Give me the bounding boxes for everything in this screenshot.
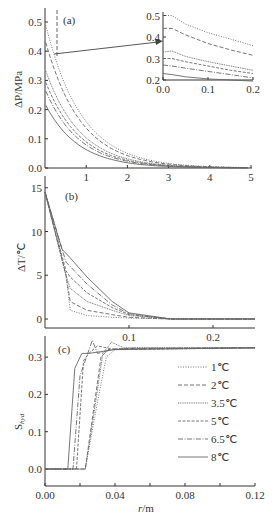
legend-item: 6.5℃ — [178, 433, 237, 445]
panel-label-c: (c) — [58, 343, 71, 356]
y-tick-label: 0.3 — [28, 74, 42, 86]
panel-label-b: (b) — [65, 190, 78, 203]
inset-arrow — [54, 42, 158, 54]
y-tick-label: 10 — [31, 226, 43, 238]
curves-inset — [163, 16, 253, 82]
x-tick-label: 0.2 — [206, 331, 220, 343]
y-tick-label: 5 — [37, 269, 43, 281]
figure: 0.00.10.20.30.40.5 12345 (a) ΔP/MPa 0.20… — [0, 0, 272, 520]
inset-plot: 0.20.30.40.5 0.00.10.2 — [146, 10, 260, 96]
series-line — [45, 192, 255, 319]
y-tick-label: 0.0 — [28, 162, 42, 174]
series-line — [45, 192, 255, 319]
y-tick-label: 0 — [37, 313, 43, 325]
x-tick-label: 4 — [207, 171, 213, 183]
x-tick-label: 0.0 — [156, 83, 170, 95]
legend: 1℃2℃3.5℃5℃6.5℃8℃ — [178, 361, 237, 463]
series-line — [46, 83, 248, 168]
x-tick-label: 1 — [83, 171, 89, 183]
series-line — [45, 192, 255, 319]
x-tick-label: 0.08 — [175, 489, 195, 501]
panel-c-hydrate-saturation: 0.00.10.20.3 0.000.040.080.12 (c) Shyd r… — [12, 336, 265, 514]
x-label-c: r/m — [138, 502, 154, 514]
y-tick-label: 0.3 — [146, 53, 160, 65]
curves-a — [46, 25, 248, 168]
series-line — [46, 91, 248, 168]
y-tick-label: 0.2 — [28, 104, 42, 116]
x-tick-label: 5 — [248, 171, 254, 183]
panel-b-temperature: 051015 0.10.2 (b) ΔT/℃ — [15, 176, 255, 343]
y-tick-label: 0.4 — [146, 31, 160, 43]
legend-label: 2℃ — [211, 379, 229, 391]
y-tick-label: 15 — [31, 182, 43, 194]
legend-item: 8℃ — [178, 451, 229, 463]
series-line — [45, 192, 255, 319]
series-line — [45, 192, 255, 319]
legend-label: 6.5℃ — [211, 433, 237, 445]
series-line — [163, 28, 253, 55]
legend-label: 3.5℃ — [211, 397, 237, 409]
legend-item: 3.5℃ — [178, 397, 237, 409]
legend-item: 1℃ — [178, 361, 229, 373]
y-tick-label: 0.3 — [28, 351, 42, 363]
y-tick-label: 0.0 — [28, 463, 42, 475]
x-tick-label: 2 — [125, 171, 131, 183]
legend-label: 1℃ — [211, 361, 229, 373]
x-tick-label: 0.1 — [122, 331, 136, 343]
panel-label-a: (a) — [63, 14, 76, 27]
y-label-b: ΔT/℃ — [15, 243, 27, 272]
y-tick-label: 0.1 — [28, 426, 42, 438]
curves-b — [45, 192, 255, 319]
x-tick-label: 3 — [166, 171, 172, 183]
x-tick-label: 0.04 — [105, 489, 125, 501]
y-tick-label: 0.1 — [28, 133, 42, 145]
y-label-a: ΔP/MPa — [12, 71, 24, 108]
y-tick-label: 0.5 — [28, 16, 42, 28]
x-tick-label: 0.2 — [246, 83, 260, 95]
y-tick-label: 0.4 — [28, 45, 42, 57]
legend-item: 2℃ — [178, 379, 229, 391]
y-tick-label: 0.5 — [146, 10, 160, 22]
panel-a-pressure: 0.00.10.20.30.40.5 12345 (a) ΔP/MPa 0.20… — [12, 8, 260, 183]
legend-item: 5℃ — [178, 415, 229, 427]
series-line — [45, 192, 255, 319]
x-tick-label: 0.12 — [245, 489, 264, 501]
y-tick-label: 0.2 — [28, 388, 42, 400]
legend-label: 8℃ — [211, 451, 229, 463]
series-line — [163, 51, 253, 70]
legend-label: 5℃ — [211, 415, 229, 427]
x-tick-label: 0.1 — [201, 83, 215, 95]
y-label-c: Shyd — [12, 413, 26, 430]
x-tick-label: 0.00 — [35, 489, 55, 501]
